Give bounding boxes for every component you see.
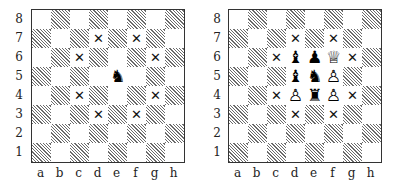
file-label-b: b bbox=[50, 163, 69, 182]
square-f6: ♕ bbox=[324, 48, 343, 67]
x-mark-icon: ✕ bbox=[347, 48, 358, 67]
square-b1 bbox=[248, 143, 267, 162]
square-d7: ✕ bbox=[89, 29, 108, 48]
square-a8 bbox=[32, 10, 51, 29]
square-f3: ✕ bbox=[324, 105, 343, 124]
square-d3: ✕ bbox=[286, 105, 305, 124]
square-e8 bbox=[305, 10, 324, 29]
rank-label-8: 8 bbox=[12, 9, 26, 28]
square-d4: ♙ bbox=[286, 86, 305, 105]
x-mark-icon: ✕ bbox=[328, 105, 339, 124]
rank-label-5: 5 bbox=[12, 66, 26, 85]
square-a4 bbox=[229, 86, 248, 105]
square-c4: ✕ bbox=[70, 86, 89, 105]
file-label-d: d bbox=[88, 163, 107, 182]
x-mark-icon: ✕ bbox=[74, 86, 85, 105]
square-f8 bbox=[127, 10, 146, 29]
file-labels: a b c d e f g h bbox=[31, 163, 183, 182]
file-label-g: g bbox=[145, 163, 164, 182]
square-c5 bbox=[70, 67, 89, 86]
square-e2 bbox=[108, 124, 127, 143]
right-diagram: 8 7 6 5 4 3 2 1 ✕✕✕♝♟♕✕♝♞♙✕♙♜♙✕✕✕ a b c … bbox=[198, 0, 396, 190]
square-g6: ✕ bbox=[343, 48, 362, 67]
square-b4 bbox=[51, 86, 70, 105]
square-h3 bbox=[362, 105, 381, 124]
square-h5 bbox=[362, 67, 381, 86]
file-labels: a b c d e f g h bbox=[228, 163, 380, 182]
black-rook-icon: ♜ bbox=[307, 86, 322, 105]
square-g8 bbox=[146, 10, 165, 29]
x-mark-icon: ✕ bbox=[93, 105, 104, 124]
square-h6 bbox=[165, 48, 184, 67]
square-h8 bbox=[165, 10, 184, 29]
chessboard: ✕✕✕✕♞✕✕✕✕ bbox=[31, 9, 185, 163]
file-label-a: a bbox=[228, 163, 247, 182]
square-e3 bbox=[305, 105, 324, 124]
file-label-e: e bbox=[107, 163, 126, 182]
square-b5 bbox=[51, 67, 70, 86]
rank-label-4: 4 bbox=[12, 85, 26, 104]
square-f5: ♙ bbox=[324, 67, 343, 86]
square-b5 bbox=[248, 67, 267, 86]
square-d3: ✕ bbox=[89, 105, 108, 124]
square-d6 bbox=[89, 48, 108, 67]
square-f3: ✕ bbox=[127, 105, 146, 124]
rank-label-2: 2 bbox=[210, 123, 224, 142]
square-h6 bbox=[362, 48, 381, 67]
file-label-f: f bbox=[126, 163, 145, 182]
chessboard: ✕✕✕♝♟♕✕♝♞♙✕♙♜♙✕✕✕ bbox=[228, 9, 382, 163]
black-knight-icon: ♞ bbox=[307, 67, 322, 86]
square-a8 bbox=[229, 10, 248, 29]
black-knight-icon: ♞ bbox=[110, 67, 125, 86]
square-e2 bbox=[305, 124, 324, 143]
square-c6: ✕ bbox=[70, 48, 89, 67]
square-d7: ✕ bbox=[286, 29, 305, 48]
white-pawn-icon: ♙ bbox=[326, 67, 341, 86]
square-g3 bbox=[146, 105, 165, 124]
square-e1 bbox=[108, 143, 127, 162]
square-c1 bbox=[70, 143, 89, 162]
square-d1 bbox=[286, 143, 305, 162]
x-mark-icon: ✕ bbox=[328, 29, 339, 48]
square-a1 bbox=[229, 143, 248, 162]
square-c3 bbox=[70, 105, 89, 124]
square-b2 bbox=[51, 124, 70, 143]
square-b3 bbox=[51, 105, 70, 124]
square-g1 bbox=[343, 143, 362, 162]
x-mark-icon: ✕ bbox=[290, 105, 301, 124]
x-mark-icon: ✕ bbox=[271, 86, 282, 105]
rank-label-4: 4 bbox=[210, 85, 224, 104]
square-e6: ♟ bbox=[305, 48, 324, 67]
file-label-g: g bbox=[342, 163, 361, 182]
square-a6 bbox=[32, 48, 51, 67]
square-d6: ♝ bbox=[286, 48, 305, 67]
square-c8 bbox=[70, 10, 89, 29]
square-a4 bbox=[32, 86, 51, 105]
square-e7 bbox=[305, 29, 324, 48]
square-b6 bbox=[248, 48, 267, 67]
black-pawn-icon: ♟ bbox=[307, 48, 322, 67]
square-b2 bbox=[248, 124, 267, 143]
square-c7 bbox=[267, 29, 286, 48]
square-d4 bbox=[89, 86, 108, 105]
square-g5 bbox=[343, 67, 362, 86]
rank-label-5: 5 bbox=[210, 66, 224, 85]
file-label-d: d bbox=[285, 163, 304, 182]
square-a6 bbox=[229, 48, 248, 67]
square-d5 bbox=[89, 67, 108, 86]
square-f1 bbox=[324, 143, 343, 162]
square-c4: ✕ bbox=[267, 86, 286, 105]
square-a7 bbox=[229, 29, 248, 48]
square-a1 bbox=[32, 143, 51, 162]
rank-label-1: 1 bbox=[210, 142, 224, 161]
square-b8 bbox=[51, 10, 70, 29]
square-a5 bbox=[32, 67, 51, 86]
rank-label-7: 7 bbox=[210, 28, 224, 47]
square-b7 bbox=[248, 29, 267, 48]
square-h7 bbox=[362, 29, 381, 48]
square-f6 bbox=[127, 48, 146, 67]
square-f2 bbox=[127, 124, 146, 143]
square-h2 bbox=[165, 124, 184, 143]
square-g7 bbox=[146, 29, 165, 48]
square-g2 bbox=[146, 124, 165, 143]
